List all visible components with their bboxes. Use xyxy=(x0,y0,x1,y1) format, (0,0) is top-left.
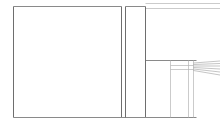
canvas-background xyxy=(0,0,220,128)
drawing-canvas xyxy=(0,0,220,128)
technical-line-drawing xyxy=(0,0,220,128)
